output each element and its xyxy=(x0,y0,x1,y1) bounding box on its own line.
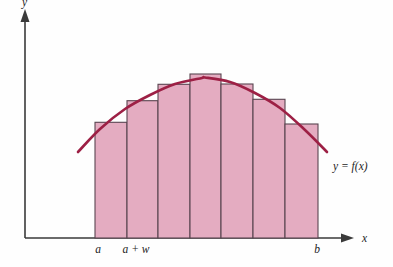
y-axis-label: y xyxy=(21,0,28,9)
x-tick-label: b xyxy=(314,243,320,255)
x-axis-label: x xyxy=(361,232,368,244)
riemann-bar xyxy=(221,84,253,238)
riemann-bar xyxy=(158,84,190,238)
riemann-sum-chart: y x aa + wb y = f(x) xyxy=(0,0,393,267)
y-axis-group: y xyxy=(21,0,30,238)
riemann-bar xyxy=(285,124,318,238)
x-tick-labels-group: aa + wb xyxy=(95,243,320,255)
riemann-bar xyxy=(127,101,158,238)
riemann-bar xyxy=(190,74,221,238)
x-axis-arrowhead xyxy=(341,234,354,243)
riemann-sum-figure: y x aa + wb y = f(x) xyxy=(0,0,393,267)
y-axis-arrowhead xyxy=(21,9,30,22)
x-tick-label: a xyxy=(95,243,101,255)
x-tick-label: a + w xyxy=(123,243,150,255)
riemann-bars-group xyxy=(95,74,318,238)
curve-equation-label: y = f(x) xyxy=(332,160,368,173)
riemann-bar xyxy=(253,99,285,238)
riemann-bar xyxy=(95,122,127,238)
